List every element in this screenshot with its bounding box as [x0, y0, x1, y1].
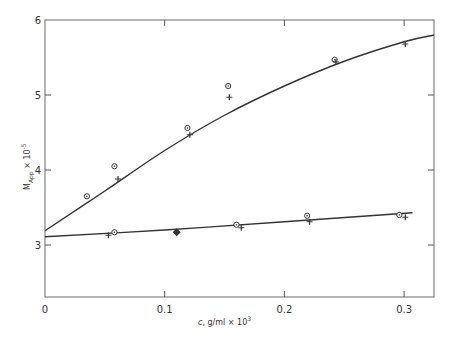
circle-marker-dot — [114, 231, 116, 233]
y-tick-label: 5 — [35, 90, 41, 101]
circle-marker-dot — [187, 127, 189, 129]
x-tick-label: 0.1 — [157, 304, 173, 315]
circle-marker-dot — [114, 165, 116, 167]
chart: 00.10.20.33456 c, g/ml × 103 MApp × 10-5 — [0, 0, 455, 342]
circle-marker-dot — [306, 215, 308, 217]
lower-fit-curve — [45, 213, 412, 237]
x-tick-label: 0 — [42, 304, 48, 315]
y-tick-label: 6 — [35, 15, 41, 26]
fit-curves — [45, 35, 434, 237]
circle-marker-dot — [86, 195, 88, 197]
y-tick-label: 3 — [35, 240, 41, 251]
x-tick-label: 0.3 — [396, 304, 412, 315]
circle-marker-dot — [334, 59, 336, 61]
x-tick-label: 0.2 — [276, 304, 292, 315]
upper-fit-curve — [45, 35, 434, 231]
circle-marker-dot — [227, 85, 229, 87]
plot-border — [45, 20, 434, 297]
plus-marker — [226, 94, 232, 100]
axis-ticks: 00.10.20.33456 — [35, 15, 434, 315]
plot-frame — [45, 20, 434, 297]
x-axis-label: c, g/ml × 103 — [198, 315, 251, 327]
y-axis-label: MApp × 10-5 — [20, 143, 35, 190]
circle-marker-dot — [399, 214, 401, 216]
circle-marker-dot — [236, 224, 238, 226]
axis-labels: c, g/ml × 103 MApp × 10-5 — [20, 143, 251, 327]
y-tick-label: 4 — [35, 165, 41, 176]
data-points — [84, 41, 408, 238]
plus-marker — [402, 214, 408, 220]
